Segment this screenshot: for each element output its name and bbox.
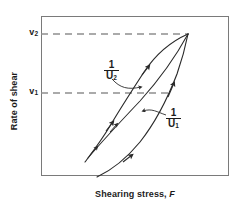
plot-frame: [42, 17, 229, 176]
rheogram-figure: v2 v1 1 U2 1 U1 Rate of shear Shearing s…: [0, 0, 242, 206]
ytick-label-v1: v1: [22, 86, 38, 96]
x-axis-label: Shearing stress, F: [41, 189, 229, 199]
y-axis-label: Rate of shear: [9, 59, 19, 143]
annotation-reciprocal-u1: 1 U1: [166, 108, 181, 130]
annotation-reciprocal-u2: 1 U2: [104, 60, 119, 82]
ytick-label-v2: v2: [22, 27, 38, 37]
